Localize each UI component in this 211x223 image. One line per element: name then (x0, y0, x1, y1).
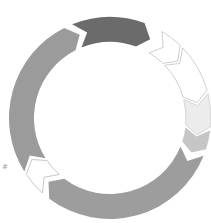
segment-top-dark (72, 17, 150, 48)
segment-chevron-small-white (149, 31, 180, 63)
left-margin-glyph: # (2, 164, 8, 171)
segment-bottom-arc (49, 146, 204, 219)
cycle-diagram (0, 0, 211, 223)
segment-left-arc (9, 28, 80, 172)
